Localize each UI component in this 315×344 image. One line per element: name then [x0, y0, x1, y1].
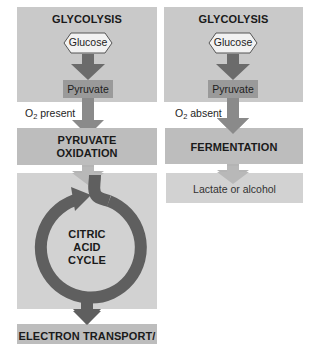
pyruvate-box-aerobic: Pyruvate [63, 80, 113, 98]
arrow-down-icon [217, 166, 249, 184]
pyruvate-oxidation-title: PYRUVATE OXIDATION [17, 134, 157, 160]
arrow-down-icon [217, 118, 249, 134]
glucose-label-anaerobic: Glucose [208, 36, 258, 48]
citric-line2: ACID [17, 241, 157, 254]
citric-line1: CITRIC [17, 228, 157, 241]
oxygen-absent-label: O2 absent [175, 107, 222, 121]
glycolysis-title-aerobic: GLYCOLYSIS [17, 13, 157, 26]
pyruvate-oxidation-line1: PYRUVATE [17, 134, 157, 147]
arrow-down-icon [215, 54, 251, 80]
glycolysis-title-anaerobic: GLYCOLYSIS [164, 13, 303, 26]
condition-prefix: O [175, 107, 183, 119]
electron-transport-title: ELECTRON TRANSPORT/ [17, 330, 157, 343]
glucose-label-aerobic: Glucose [63, 36, 113, 48]
condition-text: present [37, 107, 75, 119]
citric-line3: CYCLE [17, 254, 157, 267]
fermentation-title: FERMENTATION [165, 141, 303, 154]
fermentation-product-label: Lactate or alcohol [166, 183, 303, 195]
pyruvate-oxidation-line2: OXIDATION [17, 147, 157, 160]
oxygen-present-label: O2 present [25, 107, 75, 121]
arrow-down-icon [73, 309, 101, 325]
condition-prefix: O [25, 107, 33, 119]
citric-acid-cycle-title: CITRIC ACID CYCLE [17, 228, 157, 267]
arrow-down-icon [70, 54, 106, 80]
pyruvate-box-anaerobic: Pyruvate [208, 80, 258, 98]
